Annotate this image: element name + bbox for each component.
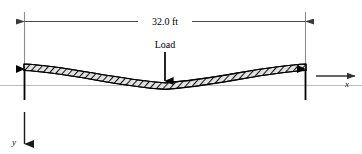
x-axis-label: x: [344, 79, 349, 89]
load-label: Load: [155, 39, 176, 50]
dimension-label: 32.0 ft: [152, 16, 178, 27]
beam-deflection-figure: 32.0 ft Load x y: [0, 0, 362, 154]
canvas-background: [0, 0, 362, 154]
y-axis-label: y: [11, 137, 16, 147]
